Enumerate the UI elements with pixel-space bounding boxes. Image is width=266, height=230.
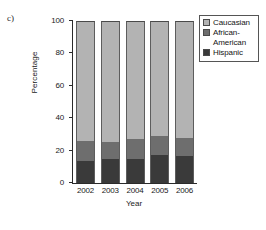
- legend-item-label: African-: [213, 28, 240, 38]
- y-axis-tick-label: 60: [56, 81, 65, 90]
- bar-segment: [126, 21, 145, 139]
- bar-segment: [126, 139, 145, 158]
- bar-2004[interactable]: [126, 21, 145, 183]
- chart-legend: Caucasian African- American Hispanic: [199, 15, 259, 62]
- bar-segment: [175, 138, 194, 157]
- stacked-bar-chart-figure: c) Percentage 02040608010020022003200420…: [0, 0, 266, 230]
- y-axis-tick-label: 20: [56, 146, 65, 155]
- legend-swatch-icon: [203, 29, 210, 36]
- legend-item-hispanic: Hispanic: [203, 48, 256, 58]
- y-axis-tick-label: 100: [51, 16, 64, 25]
- y-axis-tick: 100: [69, 20, 73, 21]
- bar-2005[interactable]: [150, 21, 169, 183]
- bar-2006[interactable]: [175, 21, 194, 183]
- y-axis-tick: 40: [69, 117, 73, 118]
- legend-item-label-continued: American: [213, 38, 256, 48]
- bar-segment: [150, 21, 169, 136]
- bar-segment: [76, 21, 95, 141]
- bar-segment: [150, 155, 169, 183]
- legend-item-african-american: African-: [203, 28, 256, 38]
- legend-item-label: Hispanic: [213, 48, 243, 58]
- legend-item-label: Caucasian: [213, 18, 250, 28]
- bar-2003[interactable]: [101, 21, 120, 183]
- legend-swatch-icon: [203, 19, 210, 26]
- legend-swatch-icon: [203, 49, 210, 56]
- y-axis-tick: 0: [69, 182, 73, 183]
- bar-segment: [126, 159, 145, 183]
- bar-segment: [76, 141, 95, 161]
- bar-segment: [150, 136, 169, 155]
- x-axis-title: Year: [72, 199, 196, 208]
- y-axis-tick: 80: [69, 52, 73, 53]
- bar-segment: [101, 21, 120, 142]
- y-axis-tick-label: 80: [56, 48, 65, 57]
- legend-item-caucasian: Caucasian: [203, 18, 256, 28]
- y-axis-tick-label: 0: [60, 178, 64, 187]
- plot-area: 02040608010020022003200420052006: [72, 21, 197, 184]
- bar-2002[interactable]: [76, 21, 95, 183]
- bar-segment: [76, 161, 95, 183]
- y-axis-tick: 20: [69, 150, 73, 151]
- panel-label: c): [7, 13, 14, 23]
- bar-segment: [101, 159, 120, 183]
- bar-segment: [175, 156, 194, 183]
- bar-segment: [101, 142, 120, 159]
- y-axis-title: Percentage: [30, 37, 39, 109]
- x-axis-tick-label: 2006: [170, 186, 200, 195]
- bar-segment: [175, 21, 194, 138]
- y-axis-tick-label: 40: [56, 113, 65, 122]
- y-axis-tick: 60: [69, 85, 73, 86]
